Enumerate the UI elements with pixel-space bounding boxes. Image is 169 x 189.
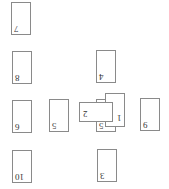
card-3[interactable]: 3 — [97, 149, 117, 182]
card-8[interactable]: 8 — [12, 51, 32, 84]
card-number: 2 — [83, 109, 88, 118]
card-9[interactable]: 9 — [140, 98, 160, 131]
card-4[interactable]: 4 — [96, 50, 116, 83]
card-number: 9 — [143, 120, 148, 129]
card-number: 5 — [52, 121, 57, 130]
card-number: 3 — [100, 171, 105, 180]
card-2[interactable]: 2 — [79, 102, 113, 122]
card-5[interactable]: 5 — [49, 99, 69, 132]
card-number: 4 — [99, 72, 104, 81]
card-number: 7 — [14, 24, 19, 33]
card-6[interactable]: 6 — [12, 100, 32, 133]
card-number: 8 — [15, 73, 20, 82]
card-number: 1 — [117, 113, 122, 122]
card-number: 10 — [15, 172, 24, 181]
card-7[interactable]: 7 — [11, 2, 31, 35]
card-10[interactable]: 10 — [12, 150, 32, 183]
card-number: 5 — [99, 121, 104, 130]
card-number: 6 — [15, 122, 20, 131]
